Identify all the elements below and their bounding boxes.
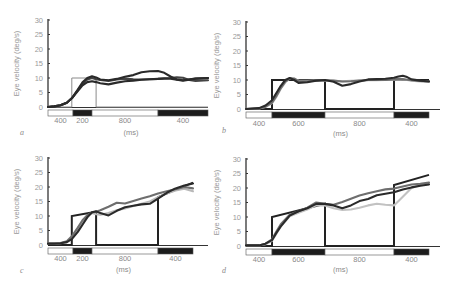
segment-duration-label: 200 [76,116,89,125]
stimulus-segment-white [246,112,272,118]
segment-duration-label: 400 [169,254,182,263]
panel-d: 051015202530Eye velocity (deg/s)40060080… [212,155,440,275]
y-tick-label: 30 [233,18,241,27]
panel-letter: a [20,128,24,137]
y-tick-label: 25 [233,169,241,178]
x-axis-label: (ms) [116,265,131,274]
segment-duration-label: 800 [353,255,366,264]
y-tick-label: 0 [237,242,241,251]
segment-duration-label: 800 [119,116,132,125]
panel-c: 051015202530Eye velocity (deg/s)40020080… [12,154,208,275]
panel-letter: b [222,126,226,135]
y-tick-label: 5 [39,88,43,97]
segment-duration-label: 400 [54,116,67,125]
y-tick-label: 20 [233,47,241,56]
panel-letter: d [222,266,227,275]
y-tick-label: 5 [237,90,241,99]
y-tick-label: 20 [35,45,43,54]
y-tick-label: 30 [35,154,43,163]
y-tick-label: 20 [233,184,241,193]
segment-duration-label: 200 [76,254,89,263]
y-tick-label: 10 [35,212,43,221]
y-tick-label: 25 [233,32,241,41]
eye-velocity-trace [48,189,193,244]
y-tick-label: 10 [35,74,43,83]
y-tick-label: 25 [35,168,43,177]
panel-a: 051015202530Eye velocity (deg/s)40020080… [12,16,208,137]
segment-duration-label: 400 [253,119,266,128]
y-tick-label: 10 [233,213,241,222]
segment-duration-label: 600 [292,255,305,264]
y-tick-label: 5 [39,226,43,235]
y-tick-label: 15 [233,61,241,70]
stimulus-segment-white [325,112,394,118]
panel-b: 051015202530Eye velocity (deg/s)40060080… [212,18,440,138]
y-tick-label: 30 [35,16,43,25]
segment-duration-label: 400 [54,254,67,263]
segment-duration-label: 400 [405,255,418,264]
y-tick-label: 25 [35,30,43,39]
figure: 051015202530Eye velocity (deg/s)40020080… [0,0,458,287]
y-tick-label: 15 [35,197,43,206]
x-axis-label: (ms) [333,265,348,274]
segment-duration-label: 400 [253,255,266,264]
segment-duration-label: 400 [177,116,190,125]
y-tick-label: 10 [233,76,241,85]
target-velocity-line [48,78,208,107]
y-axis-label: Eye velocity (deg/s) [12,30,21,96]
segment-duration-label: 400 [405,119,418,128]
stimulus-segment-black [394,112,429,118]
panel-letter: c [20,266,24,275]
x-axis-label: (ms) [124,128,139,137]
y-tick-label: 0 [39,241,43,250]
segment-duration-label: 800 [353,119,366,128]
stimulus-segment-black [272,112,325,118]
y-axis-label: Eye velocity (deg/s) [212,32,221,98]
y-tick-label: 20 [35,183,43,192]
eye-velocity-trace [246,185,429,246]
x-axis-label: (ms) [333,129,348,138]
y-axis-label: Eye velocity (deg/s) [12,168,21,234]
segment-duration-label: 600 [292,119,305,128]
y-tick-label: 15 [35,59,43,68]
y-tick-label: 30 [233,155,241,164]
y-tick-label: 0 [237,105,241,114]
eye-velocity-trace [48,187,193,244]
y-tick-label: 5 [237,227,241,236]
y-tick-label: 0 [39,103,43,112]
y-tick-label: 15 [233,198,241,207]
segment-duration-label: 800 [119,254,132,263]
y-axis-label: Eye velocity (deg/s) [212,169,221,235]
